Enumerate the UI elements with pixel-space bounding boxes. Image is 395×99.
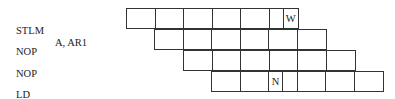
pipeline-cell <box>241 51 270 70</box>
pipeline-cell <box>213 9 242 28</box>
instruction-2: NOP <box>0 34 5 58</box>
opcode: LD <box>16 89 30 99</box>
pipeline-cell <box>298 51 327 70</box>
pipeline-cell <box>355 72 384 91</box>
pipeline-cell <box>212 30 241 49</box>
pipeline-cell <box>241 9 270 28</box>
pipeline-row-2 <box>154 29 327 50</box>
pipeline-row-3 <box>183 50 356 71</box>
write-marker: W <box>284 9 299 28</box>
opcode: NOP <box>16 68 37 80</box>
instruction-4: LD *AR1, B <box>0 77 5 99</box>
pipeline-cell <box>212 72 241 91</box>
pipeline-cell <box>269 30 298 49</box>
pipeline-cell <box>156 9 185 28</box>
pipeline-cell <box>298 30 327 49</box>
pipeline-cell <box>326 72 355 91</box>
pipeline-cell <box>127 9 156 28</box>
pipeline-cell <box>241 72 270 91</box>
operand: A, AR1 <box>55 37 87 49</box>
pipeline-cell <box>184 51 213 70</box>
pipeline-cell <box>155 30 184 49</box>
read-marker: N <box>269 72 283 91</box>
pipeline-cell-split: N <box>269 72 298 91</box>
pipeline-row-4: N <box>211 71 384 92</box>
opcode: STLM <box>16 25 44 37</box>
pipeline-cell <box>270 51 299 70</box>
pipeline-cell <box>184 30 213 49</box>
half-cell <box>270 9 284 28</box>
pipeline-cell <box>213 51 242 70</box>
pipeline-cell-split: W <box>270 9 299 28</box>
half-cell <box>283 72 297 91</box>
pipeline-cell <box>298 72 327 91</box>
pipeline-cell <box>184 9 213 28</box>
pipeline-cell <box>241 30 270 49</box>
opcode: NOP <box>16 46 37 58</box>
pipeline-row-1: W <box>126 8 299 29</box>
pipeline-cell <box>327 51 356 70</box>
